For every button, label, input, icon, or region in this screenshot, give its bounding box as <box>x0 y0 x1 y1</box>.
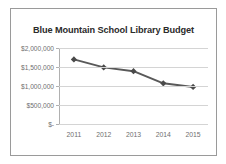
y-axis-tick <box>56 105 59 106</box>
chart-screenshot: Blue Mountain School Library Budget $-$5… <box>0 0 226 164</box>
data-point-marker <box>71 56 77 62</box>
x-axis-label: 2014 <box>156 131 171 138</box>
y-axis-label: $1,500,000 <box>21 64 54 71</box>
gridline <box>59 105 208 106</box>
y-axis-tick <box>56 86 59 87</box>
plot-area: $-$500,000$1,000,000$1,500,000$2,000,000… <box>59 48 208 124</box>
gridline <box>59 48 208 49</box>
x-axis-label: 2015 <box>186 131 201 138</box>
y-axis-label: $500,000 <box>26 102 54 109</box>
x-axis-label: 2011 <box>67 131 82 138</box>
x-axis-label: 2012 <box>96 131 111 138</box>
gridline <box>59 124 208 125</box>
gridline <box>59 86 208 87</box>
y-axis-tick <box>56 124 59 125</box>
chart-frame: Blue Mountain School Library Budget $-$5… <box>10 8 217 156</box>
data-point-marker <box>130 68 136 74</box>
y-axis-tick <box>56 67 59 68</box>
chart-title: Blue Mountain School Library Budget <box>11 25 216 35</box>
y-axis-label: $2,000,000 <box>21 45 54 52</box>
y-axis-label: $- <box>48 121 54 128</box>
chart-plot-container: Blue Mountain School Library Budget $-$5… <box>11 9 216 155</box>
y-axis-label: $1,000,000 <box>21 83 54 90</box>
x-axis-label: 2013 <box>126 131 141 138</box>
gridline <box>59 67 208 68</box>
y-axis-tick <box>56 48 59 49</box>
